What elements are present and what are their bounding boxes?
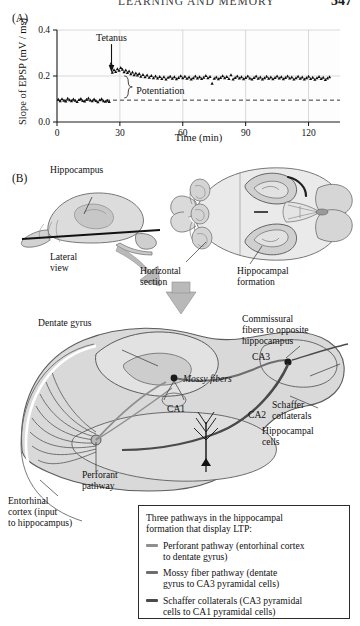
legend-text-schaffer-line2: cells to CA1 pyramidal cells): [163, 606, 275, 617]
chart-y-tick-label: 0.0: [38, 117, 50, 127]
chart-x-tick-label: 90: [241, 128, 251, 138]
perforant-label-line2: pathway: [82, 480, 115, 491]
legend-text-schaffer: Schaffer collaterals (CA3 pyramidal cell…: [163, 595, 302, 617]
legend-text-mossy: Mossy fiber pathway (dentate gyrus to CA…: [163, 567, 279, 589]
legend-title-line1: Three pathways in the hippocampal: [146, 512, 283, 523]
running-head: LEARNING AND MEMORY 347: [0, 0, 360, 9]
page-number: 347: [331, 0, 352, 9]
chart-y-tick-label: 0.4: [38, 25, 50, 35]
lateral-view-illustration: [21, 193, 160, 255]
commissural-label-line3: hippocampus: [242, 335, 293, 346]
panel-a-ltp-chart: Slope of EPSP (mV / ms) Time (min) 03060…: [0, 22, 360, 150]
legend-dash-mossy-icon: [146, 571, 158, 574]
potentiation-annotation-label: Potentiation: [136, 85, 184, 96]
legend-title: Three pathways in the hippocampal format…: [146, 512, 342, 535]
ca3-label: CA3: [252, 351, 270, 362]
legend-text-schaffer-line1: Schaffer collaterals (CA3 pyramidal: [163, 595, 302, 606]
lateral-view-label-line1: Lateral: [50, 251, 77, 262]
lateral-view-label-line2: view: [50, 262, 69, 273]
commissural-label-line2: fibers to opposite: [242, 324, 309, 335]
ca2-label: CA2: [248, 409, 266, 420]
horizontal-section-label-line2: section: [140, 276, 167, 287]
schaffer-label-line1: Schaffer: [272, 399, 305, 410]
horizontal-section-illustration: [171, 168, 352, 264]
leader-entorhinal: [40, 480, 58, 496]
pathways-legend: Three pathways in the hippocampal format…: [138, 505, 350, 619]
legend-item-perforant-pathway: Perforant pathway (entorhinal cortex to …: [146, 540, 342, 562]
schaffer-label-line2: collaterals: [272, 410, 312, 421]
perforant-label-line1: Perforant: [82, 469, 118, 480]
hippocampal-formation-label-line1: Hippocampal: [237, 265, 289, 276]
ca1-label: CA1: [167, 403, 185, 414]
chart-x-tick-label: 30: [115, 128, 125, 138]
dentate-gyrus-label: Dentate gyrus: [38, 317, 92, 328]
entorhinal-label-line1: Entorhinal: [8, 495, 49, 506]
legend-text-perforant: Perforant pathway (entorhinal cortex to …: [163, 540, 304, 562]
legend-dash-schaffer-icon: [146, 599, 158, 602]
legend-title-line2: formation that display LTP:: [146, 523, 252, 534]
legend-text-mossy-line1: Mossy fiber pathway (dentate: [163, 567, 277, 578]
legend-text-mossy-line2: gyrus to CA3 pyramidal cells): [163, 578, 279, 589]
mossy-fibers-label: Mossy fibers: [182, 373, 232, 384]
legend-text-perforant-line1: Perforant pathway (entorhinal cortex: [163, 540, 304, 551]
legend-item-mossy-fiber-pathway: Mossy fiber pathway (dentate gyrus to CA…: [146, 567, 342, 589]
legend-dash-perforant-icon: [146, 544, 158, 547]
chart-x-tick-label: 120: [301, 128, 316, 138]
chart-x-tick-label: 0: [55, 128, 60, 138]
chart-y-tick-label: 0.2: [38, 71, 50, 81]
running-head-title: LEARNING AND MEMORY: [118, 0, 275, 7]
entorhinal-label-line3: to hippocampus): [8, 517, 72, 529]
chart-canvas: 03060901200.00.20.4 Tetanus Potentiation: [0, 22, 360, 150]
commissural-label-line1: Commissural: [242, 313, 294, 324]
hippocampus-label: Hippocampus: [50, 164, 104, 175]
hippocampal-cells-label-line2: cells: [262, 436, 280, 447]
tetanus-annotation-label: Tetanus: [96, 32, 127, 43]
chart-x-tick-label: 60: [178, 128, 188, 138]
arrow-to-main-diagram-icon: [166, 282, 196, 314]
hippocampal-cells-label-line1: Hippocampal: [262, 425, 314, 436]
horizontal-section-label-line1: Horizontal: [140, 265, 181, 276]
legend-item-schaffer-collaterals: Schaffer collaterals (CA3 pyramidal cell…: [146, 595, 342, 617]
legend-text-perforant-line2: to dentate gyrus): [163, 551, 227, 562]
hippocampal-formation-label-line2: formation: [237, 276, 275, 287]
dentate-granule-cell-body: [171, 375, 178, 382]
